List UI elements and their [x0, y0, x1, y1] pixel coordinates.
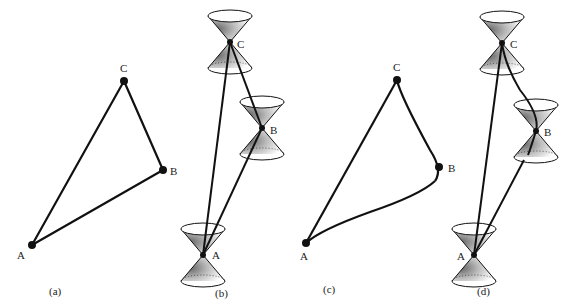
- label-c: C: [120, 62, 127, 74]
- label-a: A: [300, 250, 308, 262]
- label-b: B: [448, 162, 455, 174]
- caption-a: (a): [49, 285, 62, 298]
- label-b: B: [544, 126, 551, 138]
- label-a: A: [17, 249, 25, 261]
- label-c: C: [510, 38, 517, 50]
- label-a: A: [212, 249, 220, 261]
- panel-b: C B A (b): [181, 10, 284, 300]
- panel-c: C B A (c): [300, 61, 455, 296]
- label-b: B: [270, 124, 277, 136]
- label-c: C: [393, 61, 400, 73]
- label-a: A: [457, 250, 465, 262]
- caption-b: (b): [215, 287, 228, 300]
- caption-c: (c): [323, 283, 336, 296]
- panel-d: C B A (d): [452, 11, 558, 298]
- label-c: C: [237, 38, 244, 50]
- caption-d: (d): [477, 285, 490, 298]
- panel-a: C B A (a): [17, 62, 177, 298]
- figure: C B A (a) C B A (b) C B A (c): [0, 0, 574, 305]
- label-b: B: [170, 165, 177, 177]
